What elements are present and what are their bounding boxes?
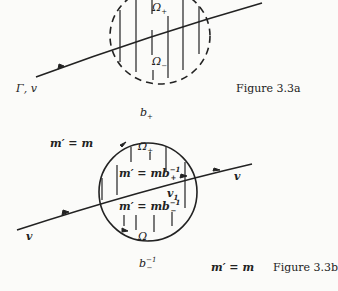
v-left-label: v [26,231,32,242]
omega-minus-label-b: Ω− [138,231,153,245]
arrow-marker-top [120,142,126,147]
b-minus-inverse-label: b−1− [139,257,152,272]
figure-3-3a-drawing [36,0,262,84]
m-prime-equals-m-top: m′ = m [50,138,93,149]
upper-formula: m′ = mb−1+ [119,166,176,181]
figure-3-3a-caption: Figure 3.3a [236,83,301,94]
omega-plus-label-a: Ω+ [152,2,167,16]
b-plus-label: b+ [140,107,153,121]
figure-3-3b-caption: Figure 3.3b [273,262,338,273]
lower-formula: m′ = mb−1− [119,199,176,214]
arrow-marker-right [213,168,220,171]
m-prime-equals-m-bottom: m′ = m [211,262,254,273]
gamma-v-label: Γ, v [16,83,37,94]
arrow-marker-bottom [122,228,128,232]
v-right-label: v [234,171,240,182]
solid-region-boundary [99,143,197,241]
curve-gamma [36,3,262,77]
omega-minus-label-a: Ω− [152,56,167,70]
omega-plus-label-b: Ω+ [138,141,153,155]
arrow-marker-inner [180,174,187,178]
figure-3-3b-drawing [17,142,252,241]
